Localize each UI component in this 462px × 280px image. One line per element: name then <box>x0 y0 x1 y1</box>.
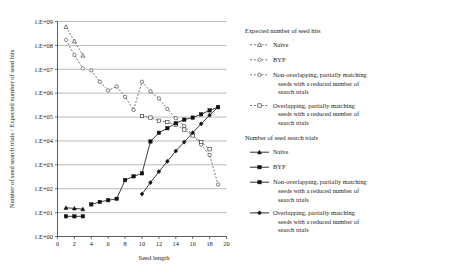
x-tick-label: 4 <box>90 240 94 247</box>
data-point-marker <box>132 175 135 178</box>
data-point-marker <box>123 178 126 181</box>
data-point-marker <box>140 172 143 175</box>
data-point-marker <box>258 58 262 62</box>
data-point-marker <box>174 116 177 119</box>
data-point-marker <box>183 124 186 127</box>
data-point-marker <box>140 114 143 117</box>
x-tick-label: 10 <box>139 240 145 247</box>
data-point-marker <box>166 127 169 130</box>
series <box>90 69 220 187</box>
y-axis-ticks: 1.E+001.E+011.E+021.E+031.E+041.E+051.E+… <box>34 18 57 240</box>
legend-entry-label[interactable]: Non-overlapping, partially matching <box>273 178 367 185</box>
x-tick-label: 20 <box>223 240 229 247</box>
data-point-marker <box>81 53 85 57</box>
legend-group-heading: Expected number of seed hits <box>245 27 321 34</box>
y-tick-label: 1.E+06 <box>34 89 53 96</box>
legend-entry-label[interactable]: Naïve <box>273 41 288 48</box>
legend-entry-label[interactable]: Overlapping, partially matching <box>273 209 356 216</box>
data-point-marker <box>73 215 76 218</box>
data-point-marker <box>216 183 219 186</box>
legend-entry-label[interactable]: search trials <box>278 88 309 95</box>
data-point-marker <box>258 73 261 76</box>
data-point-marker <box>149 140 152 143</box>
x-tick-label: 12 <box>156 240 162 247</box>
legend-entry-label[interactable]: seeds with a reduced number of <box>278 218 360 225</box>
data-point-marker <box>123 95 126 98</box>
data-point-marker <box>140 80 143 83</box>
data-point-marker <box>191 116 194 119</box>
y-tick-label: 1.E+04 <box>34 137 53 144</box>
x-tick-label: 2 <box>73 240 76 247</box>
series <box>64 206 85 211</box>
legend-entry-label[interactable]: seeds with a reduced number of <box>278 80 360 87</box>
data-point-marker <box>208 153 211 156</box>
series <box>64 215 84 218</box>
data-point-marker <box>81 215 84 218</box>
data-point-marker <box>115 197 118 200</box>
data-point-marker <box>132 108 135 111</box>
data-point-marker <box>208 109 211 112</box>
y-tick-label: 1.E+07 <box>34 66 53 73</box>
data-point-marker <box>183 118 186 121</box>
chart-figure: 1.E+001.E+011.E+021.E+031.E+041.E+051.E+… <box>0 0 462 280</box>
data-point-marker <box>258 211 262 215</box>
y-tick-label: 1.E+00 <box>34 233 53 240</box>
data-point-marker <box>157 131 160 134</box>
y-tick-label: 1.E+05 <box>34 113 53 120</box>
legend-entry-label[interactable]: Naïve <box>273 148 288 155</box>
legend-entry-label[interactable]: BYP <box>273 163 286 170</box>
y-tick-label: 1.E+03 <box>34 161 53 168</box>
x-tick-label: 18 <box>206 240 212 247</box>
data-point-marker <box>166 120 169 123</box>
x-tick-label: 16 <box>190 240 196 247</box>
legend-entry-label[interactable]: seeds with a reduced number of <box>278 110 360 117</box>
data-point-marker <box>107 199 110 202</box>
data-point-marker <box>107 89 110 92</box>
x-tick-label: 14 <box>173 240 180 247</box>
data-point-marker <box>149 90 152 93</box>
data-point-marker <box>149 116 152 119</box>
series-line <box>91 107 218 204</box>
data-point-marker <box>258 104 261 107</box>
y-tick-label: 1.E+02 <box>34 185 53 192</box>
data-point-marker <box>98 200 101 203</box>
data-point-marker <box>258 181 261 184</box>
data-point-marker <box>64 215 67 218</box>
x-tick-label: 8 <box>123 240 126 247</box>
data-point-marker <box>258 166 261 169</box>
chart-legend: Expected number of seed hitsNaïveBYPNon-… <box>245 27 367 233</box>
legend-entry-label[interactable]: Non-overlapping, partially matching <box>273 71 367 78</box>
data-point-marker <box>208 148 211 151</box>
data-point-marker <box>157 119 160 122</box>
data-point-marker <box>81 66 85 70</box>
data-point-marker <box>199 140 202 143</box>
x-tick-label: 6 <box>107 240 110 247</box>
x-axis-ticks: 02468101214161820 <box>56 237 230 248</box>
series <box>90 105 220 206</box>
legend-entry-label[interactable]: BYP <box>273 56 286 63</box>
legend-group-heading: Number of seed search trials <box>245 134 319 141</box>
data-series <box>64 25 220 218</box>
legend-entry-label[interactable]: search trials <box>278 119 309 126</box>
data-point-marker <box>166 107 169 110</box>
x-tick-label: 0 <box>56 240 59 247</box>
data-point-marker <box>199 113 202 116</box>
legend-entry-label[interactable]: search trials <box>278 226 309 233</box>
data-point-marker <box>98 80 101 83</box>
legend-entry-label[interactable]: seeds with a reduced number of <box>278 187 360 194</box>
data-point-marker <box>90 203 93 206</box>
legend-entry-label[interactable]: Overlapping, partially matching <box>273 102 356 109</box>
series-line <box>142 107 218 194</box>
chart-canvas: 1.E+001.E+011.E+021.E+031.E+041.E+051.E+… <box>0 0 462 280</box>
data-point-marker <box>64 25 68 29</box>
data-point-marker <box>90 69 93 72</box>
y-tick-label: 1.E+09 <box>34 18 53 25</box>
x-axis-title: Seed length <box>139 254 171 261</box>
y-tick-label: 1.E+08 <box>34 42 53 49</box>
series-line <box>91 70 218 184</box>
data-point-marker <box>64 38 68 42</box>
y-tick-label: 1.E+01 <box>34 209 53 216</box>
legend-entry-label[interactable]: search trials <box>278 196 309 203</box>
data-point-marker <box>115 85 118 88</box>
data-point-marker <box>183 128 186 131</box>
